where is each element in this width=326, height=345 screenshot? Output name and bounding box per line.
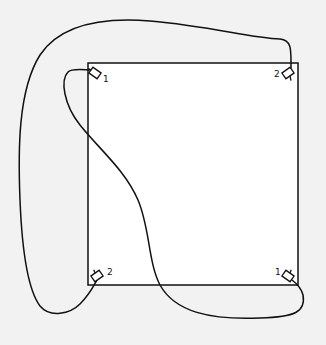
room-outline xyxy=(88,63,298,285)
device-label-top-left: 1 xyxy=(103,74,109,84)
device-label-bottom-left: 2 xyxy=(107,267,113,277)
device-label-bottom-right: 1 xyxy=(275,267,281,277)
device-label-top-right: 2 xyxy=(274,69,280,79)
diagram-svg: 1 2 2 1 xyxy=(0,0,326,345)
wiring-diagram: 1 2 2 1 xyxy=(0,0,326,345)
